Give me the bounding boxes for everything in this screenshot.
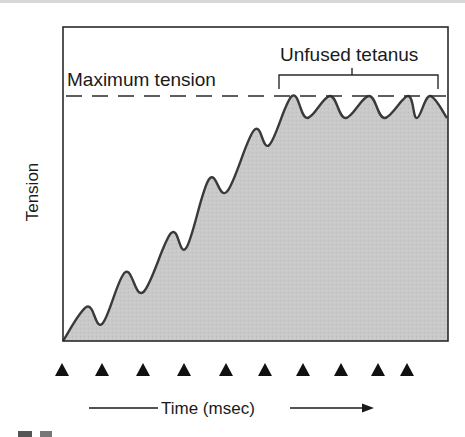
stimulus-marker-triangle — [55, 363, 69, 376]
maximum-tension-label: Maximum tension — [67, 69, 216, 90]
stimulus-marker-triangle — [219, 363, 233, 376]
time-arrow-head-icon — [362, 404, 374, 413]
stimulus-marker-triangle — [258, 363, 272, 376]
unfused-tetanus-label: Unfused tetanus — [280, 44, 418, 65]
tension-area-fill — [63, 95, 448, 341]
stimulus-markers — [55, 363, 414, 376]
stimulus-marker-triangle — [371, 363, 385, 376]
caption-fragment — [18, 431, 32, 437]
x-axis-label: Time (msec) — [161, 399, 255, 418]
stimulus-marker-triangle — [95, 363, 109, 376]
stimulus-marker-triangle — [136, 363, 150, 376]
stimulus-marker-triangle — [296, 363, 310, 376]
stimulus-marker-triangle — [177, 363, 191, 376]
y-axis-label: Tension — [23, 163, 42, 222]
caption-fragment-2 — [40, 431, 52, 437]
unfused-tetanus-bracket — [279, 68, 438, 89]
stimulus-marker-triangle — [400, 363, 414, 376]
tension-chart: Maximum tension Unfused tetanus Tension … — [0, 0, 465, 437]
stimulus-marker-triangle — [334, 363, 348, 376]
